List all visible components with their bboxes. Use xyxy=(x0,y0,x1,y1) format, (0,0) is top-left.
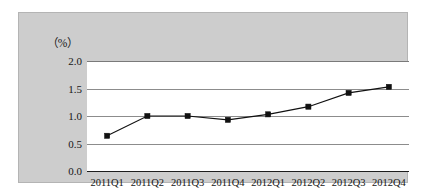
series-marker xyxy=(225,117,230,122)
series-marker xyxy=(346,90,351,95)
x-axis-tick-label: 2011Q1 xyxy=(90,177,123,189)
x-axis-tick-label: 2012Q2 xyxy=(291,177,325,189)
series-marker xyxy=(306,104,311,109)
series-marker xyxy=(266,112,271,117)
y-axis-tick-label: 1.0 xyxy=(68,111,82,122)
series-markers xyxy=(105,84,392,138)
y-axis-tick-label: 1.5 xyxy=(68,83,82,94)
x-axis-tick-label: 2012Q1 xyxy=(251,177,285,189)
x-axis-tick-label: 2011Q3 xyxy=(171,177,204,189)
series-marker xyxy=(386,84,391,89)
gridline xyxy=(87,171,409,172)
x-axis-tick-label: 2012Q4 xyxy=(372,177,406,189)
series-marker xyxy=(185,113,190,118)
x-axis-tick-label: 2011Q2 xyxy=(131,177,164,189)
x-axis-tick-label: 2012Q3 xyxy=(332,177,366,189)
series-marker xyxy=(105,133,110,138)
series-marker xyxy=(145,113,150,118)
y-axis-tick-label: 0.0 xyxy=(68,166,82,177)
y-axis-tick-label: 0.5 xyxy=(68,138,82,149)
x-axis-tick-label: 2011Q4 xyxy=(211,177,244,189)
chart-panel: （%） 0.00.51.01.52.0 2011Q12011Q22011Q320… xyxy=(18,12,408,183)
chart-figure: （%） 0.00.51.01.52.0 2011Q12011Q22011Q320… xyxy=(0,0,424,195)
data-series-svg xyxy=(87,61,409,171)
y-axis-tick-label: 2.0 xyxy=(68,56,82,67)
y-axis-unit-label: （%） xyxy=(47,36,78,50)
plot-area: 0.00.51.01.52.0 2011Q12011Q22011Q32011Q4… xyxy=(87,61,409,171)
